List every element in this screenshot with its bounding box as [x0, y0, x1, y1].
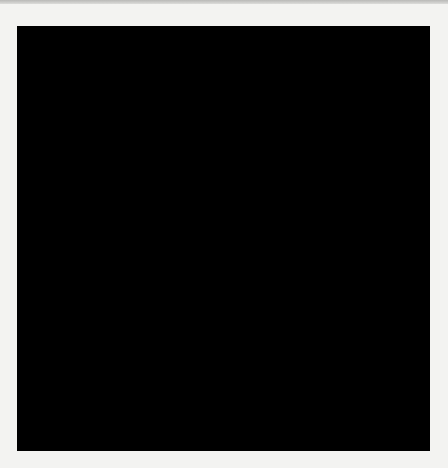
top-edge-band	[0, 0, 448, 4]
crossword-grid	[17, 26, 430, 451]
